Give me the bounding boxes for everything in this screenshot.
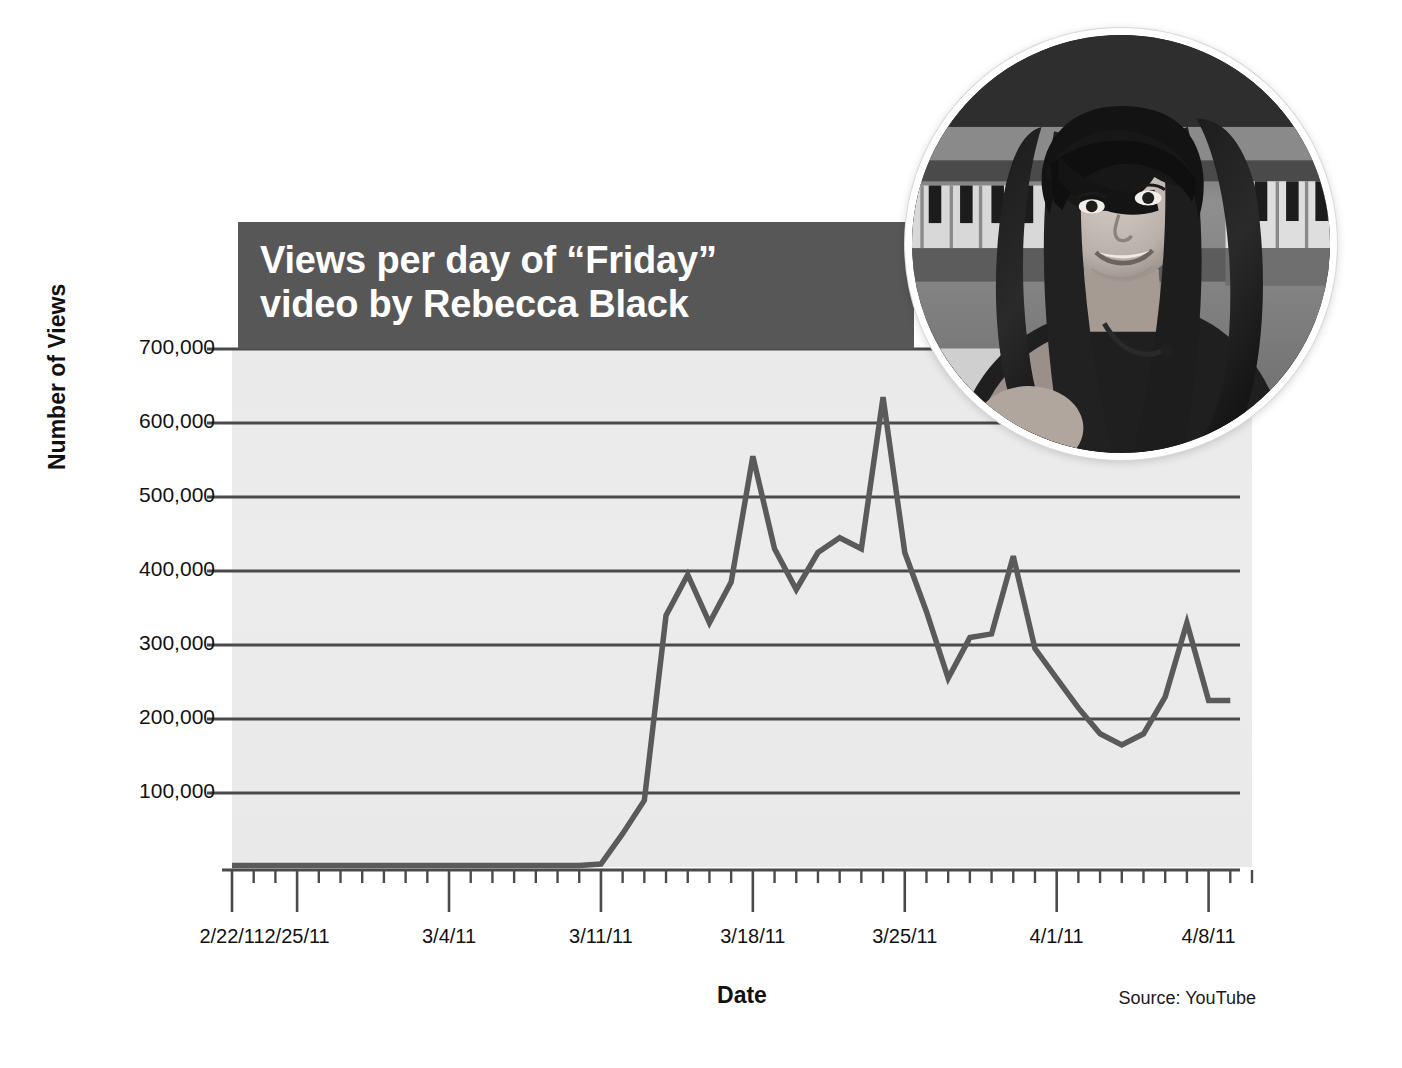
source-note: Source: YouTube xyxy=(1119,988,1256,1009)
x-axis-label-3-18-11: 3/18/11 xyxy=(720,925,785,948)
x-axis-label-3-25-11: 3/25/11 xyxy=(872,925,937,948)
chart-title-line-1: Views per day of “Friday” xyxy=(260,238,914,282)
infographic-page: 100,000200,000300,000400,000500,000600,0… xyxy=(0,0,1402,1068)
x-axis-title: Date xyxy=(232,982,1252,1009)
y-axis-tick-labels: 100,000200,000300,000400,000500,000600,0… xyxy=(0,0,215,1068)
chart-title-banner: Views per day of “Friday” video by Rebec… xyxy=(238,222,914,349)
y-axis-label-700000: 700,000 xyxy=(139,335,215,359)
y-axis-label-600000: 600,000 xyxy=(139,409,215,433)
portrait-photo-rebecca-black xyxy=(905,28,1337,460)
y-axis-label-200000: 200,000 xyxy=(139,705,215,729)
y-axis-label-100000: 100,000 xyxy=(139,779,215,803)
data-line-views-per-day xyxy=(232,397,1230,865)
y-axis-title: Number of Views xyxy=(44,210,71,470)
data-line-group xyxy=(232,397,1230,865)
x-axis-label-2-22-11: 2/22/11 xyxy=(199,925,264,948)
x-axis-label-3-11-11: 3/11/11 xyxy=(569,925,633,948)
y-axis-label-300000: 300,000 xyxy=(139,631,215,655)
x-axis-label-4-1-11: 4/1/11 xyxy=(1030,925,1084,948)
portrait-illustration xyxy=(912,35,1330,453)
x-axis-label-4-8-11: 4/8/11 xyxy=(1182,925,1236,948)
y-axis-label-500000: 500,000 xyxy=(139,483,215,507)
major-ticks-group xyxy=(232,870,1209,912)
y-axis-label-400000: 400,000 xyxy=(139,557,215,581)
chart-title-line-2: video by Rebecca Black xyxy=(260,282,914,326)
x-axis-label-2-25-11: 2/25/11 xyxy=(264,925,329,948)
x-axis-label-3-4-11: 3/4/11 xyxy=(422,925,476,948)
